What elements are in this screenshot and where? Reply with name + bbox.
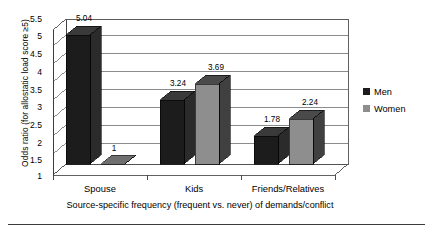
x-axis-ticks: [53, 175, 335, 180]
value-label-spouse-men: 5.04: [76, 15, 92, 23]
chart-legend: Men Women: [363, 83, 433, 117]
figure-separator-rule: [8, 224, 425, 225]
legend-item-women: Women: [363, 100, 433, 117]
figure-container: Odds ratio (for allostatic load score ≥5…: [0, 0, 433, 233]
legend-item-men: Men: [363, 83, 433, 100]
bar-kids-men: [160, 91, 195, 164]
bar-friends-women: [289, 110, 324, 164]
legend-label-men: Men: [374, 87, 392, 97]
men-swatch-icon: [363, 88, 370, 95]
value-label-friends-men: 1.78: [264, 116, 280, 124]
y-tick-label: 2: [18, 139, 42, 147]
category-label-friends: Friends/Relatives: [252, 183, 324, 194]
y-tick-label: 3.5: [18, 86, 42, 94]
value-label-kids-men: 3.24: [170, 80, 186, 88]
bar-friends-men: [254, 127, 289, 164]
plot-area: 5.04 1 3.24 3.69 1.78 2.24: [44, 12, 354, 184]
floor-plane: [53, 164, 348, 175]
value-label-spouse-women: 1: [112, 145, 117, 153]
women-swatch-icon: [363, 105, 370, 112]
legend-label-women: Women: [374, 104, 406, 114]
bar-spouse-men: [66, 26, 101, 164]
y-tick-label: 1: [18, 172, 42, 180]
value-label-kids-women: 3.69: [208, 64, 224, 72]
left-wall: [53, 19, 66, 175]
y-tick-label: 5.5: [18, 15, 42, 23]
y-tick-label: 5: [18, 32, 42, 40]
category-label-kids: Kids: [185, 183, 203, 194]
y-tick-label: 3: [18, 103, 42, 111]
y-tick-label: 4: [18, 68, 42, 76]
bar-kids-women: [195, 75, 230, 164]
y-axis-tick-labels: 5.5 5 4.5 4 3.5 3 2.5 2 1.5 1: [18, 0, 42, 233]
y-tick-label: 1.5: [18, 156, 42, 164]
x-axis-category-labels: Spouse Kids Friends/Relatives: [44, 183, 354, 199]
y-tick-label: 2.5: [18, 121, 42, 129]
x-axis-title: Source-specific frequency (frequent vs. …: [0, 200, 400, 211]
value-label-friends-women: 2.24: [302, 99, 318, 107]
y-tick-label: 4.5: [18, 50, 42, 58]
category-label-spouse: Spouse: [84, 183, 116, 194]
